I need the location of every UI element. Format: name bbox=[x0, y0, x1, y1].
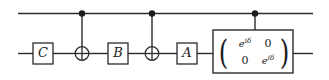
matrix-cell-r0c1: 0 bbox=[265, 38, 272, 49]
matrix-cell-r1c1: eiδ bbox=[262, 56, 274, 66]
control-dot-3 bbox=[252, 10, 258, 16]
gate-b-label: B bbox=[108, 46, 128, 59]
control-dot-2 bbox=[149, 10, 155, 16]
matrix-cell-r0c0: eiδ bbox=[239, 39, 251, 49]
control-dot-1 bbox=[79, 10, 85, 16]
matrix-left-paren: ( bbox=[219, 35, 229, 69]
gate-c-label: C bbox=[33, 46, 53, 59]
matrix-right-paren: ) bbox=[280, 35, 290, 69]
matrix-grid: eiδ 0 0 eiδ bbox=[231, 35, 277, 69]
phase-gate-matrix: ( eiδ 0 0 eiδ ) bbox=[216, 32, 292, 72]
quantum-circuit-diagram: C B A ( eiδ 0 0 eiδ ) bbox=[0, 0, 329, 80]
matrix-cell-r1c0: 0 bbox=[242, 55, 249, 66]
gate-a-label: A bbox=[177, 46, 197, 59]
